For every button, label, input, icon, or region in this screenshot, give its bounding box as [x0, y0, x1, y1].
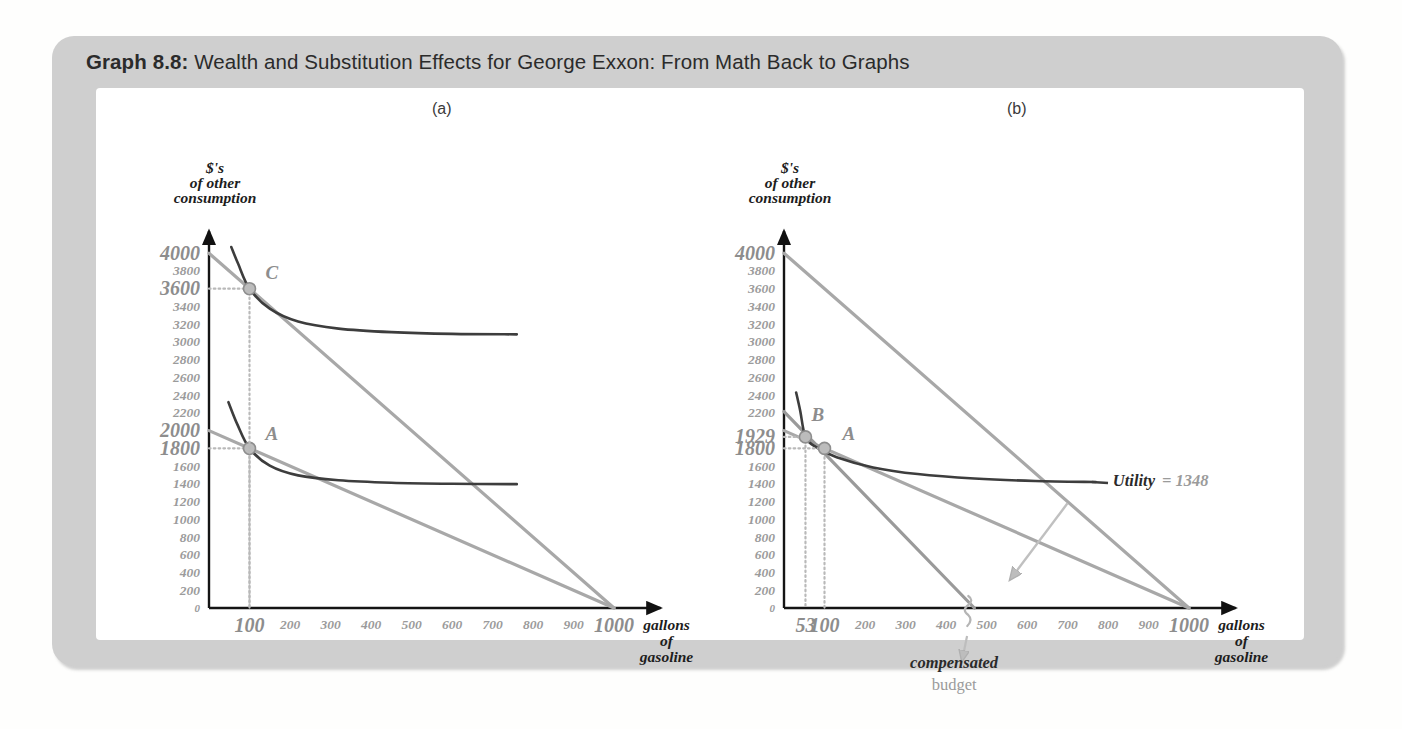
y-tick-600: 600: [755, 547, 776, 562]
data-point-B[interactable]: [799, 431, 811, 443]
x-tick-500: 500: [976, 617, 997, 632]
y-tick-labels: 2004006008001000120014001600180020002200…: [159, 242, 201, 614]
y-tick-200: 200: [179, 583, 201, 598]
x-tick-300: 300: [894, 617, 916, 632]
axis-titles: $'sof otherconsumptiongallonsofgasoline: [174, 159, 694, 665]
series-budget-line: [784, 412, 974, 608]
figure-title: Graph 8.8: Wealth and Substitution Effec…: [86, 50, 910, 74]
y-tick-1000: 1000: [748, 512, 775, 527]
point-label-A: A: [265, 423, 279, 444]
y-tick-3800: 3800: [747, 263, 775, 278]
figure-canvas: (a) (b) 20040060080010001200140016001800…: [96, 88, 1304, 640]
y-tick-800: 800: [180, 530, 201, 545]
y-tick-400: 400: [754, 565, 776, 580]
y-tick-800: 800: [755, 530, 776, 545]
y-tick-2600: 2600: [747, 370, 775, 385]
y-tick-4000: 4000: [734, 242, 775, 264]
y-tick-3800: 3800: [172, 263, 200, 278]
axis-titles: $'sof otherconsumptiongallonsofgasoline: [749, 159, 1269, 665]
y-tick-3400: 3400: [747, 299, 775, 314]
point-label-A: A: [842, 423, 856, 444]
x-tick-800: 800: [1098, 617, 1119, 632]
y-tick-1000: 1000: [173, 512, 200, 527]
x-tick-100: 100: [810, 614, 840, 636]
y-tick-3400: 3400: [172, 299, 200, 314]
y-tick-3000: 3000: [172, 334, 200, 349]
y-tick-2200: 2200: [172, 405, 200, 420]
point-label-C: C: [266, 262, 279, 283]
y-tick-400: 400: [179, 565, 201, 580]
y-tick-1929: 1929: [735, 425, 775, 447]
x-tick-600: 600: [442, 617, 463, 632]
x-axis-title: gallonsofgasoline: [1214, 616, 1269, 665]
x-tick-900: 900: [1138, 617, 1159, 632]
rotation-arrow: [1011, 503, 1068, 578]
x-tick-200: 200: [854, 617, 876, 632]
y-tick-600: 600: [180, 547, 201, 562]
y-tick-2000: 2000: [159, 419, 200, 441]
y-tick-1600: 1600: [173, 459, 200, 474]
data-point-A[interactable]: [819, 442, 831, 454]
y-tick-2800: 2800: [747, 352, 775, 367]
compensated-budget-label: compensated: [910, 653, 999, 672]
x-tick-1000: 1000: [594, 614, 634, 636]
y-tick-2200: 2200: [747, 405, 775, 420]
y-tick-1200: 1200: [173, 494, 200, 509]
utility-label: Utility= 1348: [1113, 471, 1209, 490]
y-tick-3600: 3600: [159, 277, 200, 299]
x-tick-600: 600: [1017, 617, 1038, 632]
y-tick-2600: 2600: [172, 370, 200, 385]
compensated-budget-sublabel: budget: [932, 675, 977, 694]
axis-group: [209, 231, 661, 608]
y-axis-title: $'sof otherconsumption: [749, 159, 832, 206]
y-tick-2400: 2400: [747, 388, 775, 403]
x-tick-700: 700: [482, 617, 503, 632]
series-indifference-curve: [231, 247, 517, 334]
figure-page: Graph 8.8: Wealth and Substitution Effec…: [0, 0, 1402, 729]
utility-leader-line: [1092, 482, 1108, 483]
y-tick-zero: 0: [195, 602, 201, 614]
x-tick-labels: 531002003004005006007008009001000: [795, 614, 1209, 636]
x-tick-200: 200: [279, 617, 301, 632]
x-tick-400: 400: [360, 617, 382, 632]
x-tick-400: 400: [935, 617, 957, 632]
y-tick-2800: 2800: [172, 352, 200, 367]
x-tick-800: 800: [523, 617, 544, 632]
x-tick-500: 500: [401, 617, 422, 632]
y-tick-4000: 4000: [159, 242, 200, 264]
point-label-B: B: [810, 404, 824, 425]
y-tick-3200: 3200: [172, 317, 200, 332]
y-tick-1400: 1400: [173, 476, 200, 491]
x-tick-labels: 1002003004005006007008009001000: [235, 614, 635, 636]
y-tick-labels: 2004006008001000120014001600180019292200…: [734, 242, 776, 614]
y-tick-3600: 3600: [747, 281, 775, 296]
chart-panel-a: 2004006008001000120014001600180020002200…: [96, 88, 696, 628]
x-tick-1000: 1000: [1169, 614, 1209, 636]
y-tick-1200: 1200: [748, 494, 775, 509]
figure-frame: Graph 8.8: Wealth and Substitution Effec…: [52, 36, 1342, 666]
figure-title-text: Wealth and Substitution Effects for Geor…: [194, 50, 909, 73]
y-tick-1400: 1400: [748, 476, 775, 491]
x-tick-700: 700: [1057, 617, 1078, 632]
series-budget-line: [784, 431, 1189, 608]
x-tick-300: 300: [319, 617, 341, 632]
y-tick-200: 200: [754, 583, 776, 598]
y-axis-title: $'sof otherconsumption: [174, 159, 257, 206]
y-tick-zero: 0: [770, 602, 776, 614]
figure-title-bar: Graph 8.8: Wealth and Substitution Effec…: [52, 36, 1342, 88]
y-tick-3000: 3000: [747, 334, 775, 349]
y-tick-3200: 3200: [747, 317, 775, 332]
data-point-C[interactable]: [244, 283, 256, 295]
figure-number: Graph 8.8:: [86, 50, 188, 73]
chart-panel-b: 2004006008001000120014001600180019292200…: [671, 88, 1291, 628]
y-tick-2400: 2400: [172, 388, 200, 403]
y-tick-1600: 1600: [748, 459, 775, 474]
x-tick-900: 900: [563, 617, 584, 632]
x-tick-100: 100: [235, 614, 265, 636]
series-budget-line: [209, 431, 614, 608]
axis-group: [784, 231, 1236, 608]
